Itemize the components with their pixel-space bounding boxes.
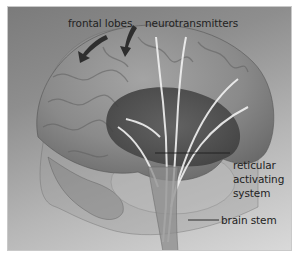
label-neurotransmitters: neurotransmitters [145,16,238,30]
label-reticular-line3: system [233,186,292,200]
brain-diagram-panel: frontal lobes neurotransmitters reticula… [7,6,292,251]
label-brain-stem: brain stem [221,213,277,227]
label-reticular-line2: activating [233,172,292,186]
label-reticular-line1: reticular [233,158,292,172]
label-frontal-lobes: frontal lobes [68,16,132,30]
label-reticular-activating-system: reticular activating system [233,158,292,200]
